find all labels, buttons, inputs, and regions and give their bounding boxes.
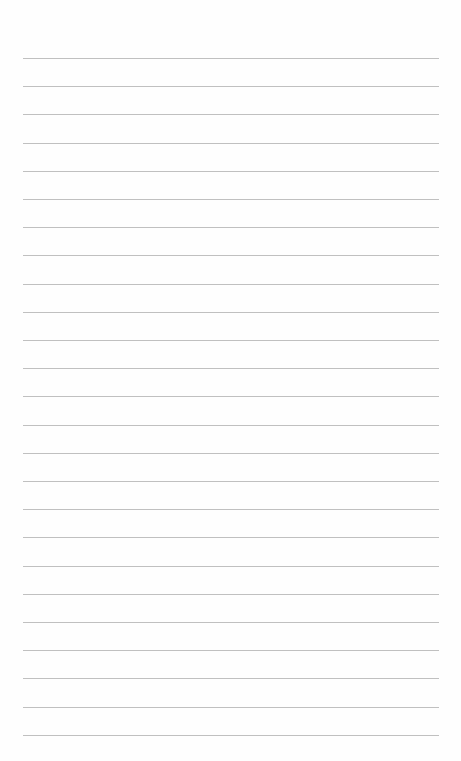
ruled-line <box>23 537 439 538</box>
ruled-line <box>23 86 439 87</box>
lined-paper-sheet <box>0 0 461 761</box>
ruled-line <box>23 368 439 369</box>
ruled-line <box>23 199 439 200</box>
ruled-line <box>23 481 439 482</box>
ruled-line <box>23 566 439 567</box>
ruled-line <box>23 707 439 708</box>
ruled-line <box>23 171 439 172</box>
ruled-line <box>23 678 439 679</box>
ruled-line <box>23 735 439 736</box>
ruled-line <box>23 650 439 651</box>
ruled-line <box>23 340 439 341</box>
ruled-line <box>23 594 439 595</box>
ruled-line <box>23 255 439 256</box>
ruled-line <box>23 622 439 623</box>
ruled-line <box>23 284 439 285</box>
ruled-line <box>23 312 439 313</box>
ruled-line <box>23 396 439 397</box>
ruled-line <box>23 114 439 115</box>
ruled-line <box>23 143 439 144</box>
ruled-line <box>23 227 439 228</box>
ruled-line <box>23 58 439 59</box>
ruled-line <box>23 509 439 510</box>
ruled-line <box>23 453 439 454</box>
ruled-line <box>23 425 439 426</box>
